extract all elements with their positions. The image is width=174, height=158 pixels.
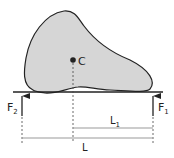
dimension-l1-label: L1	[110, 115, 120, 129]
dimension-l-label: L	[82, 142, 88, 153]
diagram-canvas: C F2 F1 L1 L	[0, 0, 174, 158]
center-of-gravity-marker	[70, 57, 76, 63]
center-label: C	[78, 55, 86, 68]
force-left-label: F2	[7, 101, 18, 116]
force-right-label: F1	[158, 101, 169, 116]
body-shape	[24, 11, 152, 93]
